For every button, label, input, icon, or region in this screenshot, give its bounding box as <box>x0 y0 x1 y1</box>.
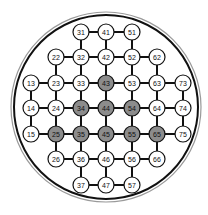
node-45: 45 <box>98 126 114 142</box>
node-label: 52 <box>128 54 136 61</box>
node-36: 36 <box>73 151 89 167</box>
node-label: 44 <box>102 105 110 112</box>
node-73: 73 <box>175 75 191 91</box>
node-label: 24 <box>52 105 60 112</box>
node-label: 42 <box>102 54 110 61</box>
node-53: 53 <box>124 75 140 91</box>
node-label: 36 <box>77 156 85 163</box>
node-label: 13 <box>27 80 35 87</box>
node-52: 52 <box>124 49 140 65</box>
node-26: 26 <box>48 151 64 167</box>
node-51: 51 <box>124 24 140 40</box>
node-44: 44 <box>98 100 114 116</box>
node-13: 13 <box>23 75 39 91</box>
node-35: 35 <box>73 126 89 142</box>
node-75: 75 <box>175 126 191 142</box>
node-label: 54 <box>128 105 136 112</box>
node-47: 47 <box>98 177 114 193</box>
node-label: 31 <box>77 29 85 36</box>
node-label: 56 <box>128 156 136 163</box>
node-25: 25 <box>48 126 64 142</box>
node-14: 14 <box>23 100 39 116</box>
node-42: 42 <box>98 49 114 65</box>
node-label: 73 <box>179 80 187 87</box>
node-54: 54 <box>124 100 140 116</box>
node-label: 14 <box>27 105 35 112</box>
node-label: 34 <box>77 105 85 112</box>
node-65: 65 <box>149 126 165 142</box>
node-15: 15 <box>23 126 39 142</box>
node-63: 63 <box>149 75 165 91</box>
node-label: 37 <box>77 182 85 189</box>
node-23: 23 <box>48 75 64 91</box>
node-label: 66 <box>153 156 161 163</box>
node-label: 62 <box>153 54 161 61</box>
node-label: 45 <box>102 131 110 138</box>
node-label: 35 <box>77 131 85 138</box>
node-41: 41 <box>98 24 114 40</box>
node-label: 51 <box>128 29 136 36</box>
node-label: 22 <box>52 54 60 61</box>
node-label: 53 <box>128 80 136 87</box>
node-label: 74 <box>179 105 187 112</box>
node-label: 32 <box>77 54 85 61</box>
node-label: 23 <box>52 80 60 87</box>
node-label: 15 <box>27 131 35 138</box>
node-33: 33 <box>73 75 89 91</box>
diagram-canvas: 1314152223242526313233343536374142434445… <box>0 0 208 215</box>
node-31: 31 <box>73 24 89 40</box>
node-label: 26 <box>52 156 60 163</box>
node-label: 25 <box>52 131 60 138</box>
node-label: 41 <box>102 29 110 36</box>
node-46: 46 <box>98 151 114 167</box>
node-label: 63 <box>153 80 161 87</box>
node-label: 46 <box>102 156 110 163</box>
node-24: 24 <box>48 100 64 116</box>
node-34: 34 <box>73 100 89 116</box>
node-label: 55 <box>128 131 136 138</box>
node-label: 47 <box>102 182 110 189</box>
node-64: 64 <box>149 100 165 116</box>
node-62: 62 <box>149 49 165 65</box>
node-label: 65 <box>153 131 161 138</box>
grid-diagram: 1314152223242526313233343536374142434445… <box>0 0 208 215</box>
node-32: 32 <box>73 49 89 65</box>
node-66: 66 <box>149 151 165 167</box>
node-55: 55 <box>124 126 140 142</box>
node-43: 43 <box>98 75 114 91</box>
node-label: 75 <box>179 131 187 138</box>
node-74: 74 <box>175 100 191 116</box>
node-label: 33 <box>77 80 85 87</box>
node-label: 57 <box>128 182 136 189</box>
node-57: 57 <box>124 177 140 193</box>
node-label: 43 <box>102 80 110 87</box>
node-56: 56 <box>124 151 140 167</box>
node-22: 22 <box>48 49 64 65</box>
node-label: 64 <box>153 105 161 112</box>
node-37: 37 <box>73 177 89 193</box>
